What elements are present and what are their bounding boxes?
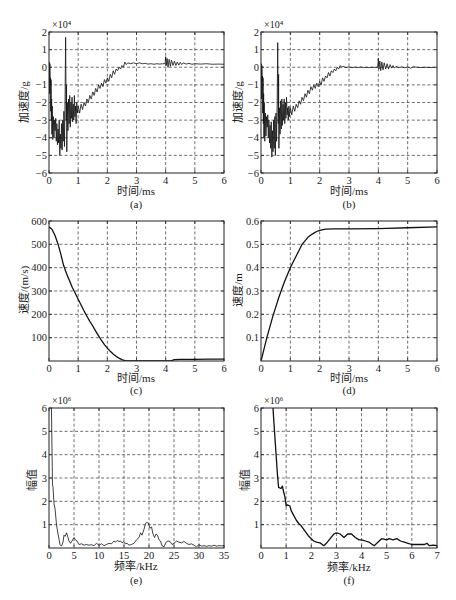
- x-tick-label: 0: [258, 363, 263, 374]
- y-tick-label: 0.3: [246, 286, 259, 297]
- x-tick-label: 5: [405, 175, 410, 186]
- x-tick-label: 5: [71, 550, 76, 561]
- x-tick-label: 6: [434, 363, 439, 374]
- x-tick-label: 15: [119, 550, 130, 561]
- x-tick-label: 2: [309, 550, 314, 561]
- x-tick-label: 4: [376, 175, 382, 186]
- y-tick-label: 4: [254, 449, 260, 460]
- y-tick-label: 5: [254, 426, 259, 437]
- y-tick-label: 200: [31, 309, 47, 320]
- x-tick-label: 5: [384, 550, 389, 561]
- panel-caption: (a): [130, 198, 143, 211]
- y-tick-label: −5: [248, 150, 259, 161]
- y-tick-label: 0: [42, 62, 47, 73]
- x-tick-label: 5: [192, 363, 197, 374]
- x-tick-label: 2: [317, 363, 322, 374]
- x-tick-label: 0: [258, 175, 263, 186]
- plot-area: [272, 396, 437, 545]
- panel-caption: (b): [343, 198, 356, 211]
- y-axis-label: 加速度/g: [231, 81, 244, 123]
- grid: [261, 221, 437, 361]
- y-tick-label: −6: [248, 168, 259, 179]
- subplot-f-spectrum: 01234567123456 ×10⁶ 频率/kHz 幅值 (f): [239, 395, 440, 587]
- y-tick-label: 0.4: [246, 262, 260, 273]
- x-axis-label: 时间/ms: [117, 372, 155, 384]
- x-tick-label: 1: [288, 363, 293, 374]
- x-tick-label: 3: [334, 550, 339, 561]
- subplot-c-velocity: 0123456100200300400500600 时间/ms 速度/(m/s)…: [17, 216, 227, 398]
- panel-caption: (d): [343, 384, 356, 397]
- figure: 0123456−6−5−4−3−2−1012 ×10⁴ 时间/ms 加速度/g …: [0, 0, 456, 600]
- y-axis-label: 加速度/g: [17, 81, 30, 123]
- y-tick-label: 3: [42, 473, 47, 484]
- y-tick-label: −1: [248, 79, 259, 90]
- grid: [49, 32, 224, 173]
- data-series-line: [272, 396, 437, 545]
- tick-labels: 05101520253035123456: [42, 403, 230, 561]
- x-tick-label: 7: [434, 550, 439, 561]
- y-exponent-label: ×10⁶: [264, 395, 284, 406]
- y-tick-label: 400: [31, 262, 47, 273]
- data-series-line: [51, 394, 224, 547]
- x-tick-label: 5: [405, 363, 410, 374]
- y-tick-label: 0.1: [246, 332, 259, 343]
- subplot-e-spectrum: 05101520253035123456 ×10⁶ 频率/kHz 幅值 (e): [26, 394, 229, 587]
- grid: [261, 408, 437, 548]
- grid: [261, 32, 437, 173]
- x-tick-label: 2: [105, 175, 110, 186]
- y-tick-label: 3: [254, 473, 259, 484]
- panel-caption: (f): [344, 574, 355, 587]
- y-tick-label: 0.6: [246, 216, 259, 227]
- tick-labels: 01234560.10.20.30.40.50.6: [246, 216, 440, 374]
- panel-caption: (c): [130, 384, 143, 397]
- y-tick-label: 4: [42, 449, 48, 460]
- tick-labels: 0123456−6−5−4−3−2−1012: [248, 27, 440, 186]
- subplot-a-acceleration: 0123456−6−5−4−3−2−1012 ×10⁴ 时间/ms 加速度/g …: [17, 19, 227, 211]
- y-tick-label: 1: [42, 44, 47, 55]
- y-tick-label: 2: [42, 496, 47, 507]
- panel-caption: (e): [130, 574, 143, 587]
- x-tick-label: 4: [359, 550, 365, 561]
- x-axis-label: 时间/ms: [330, 372, 368, 384]
- x-tick-label: 1: [76, 363, 81, 374]
- x-tick-label: 35: [219, 550, 230, 561]
- x-axis-label: 频率/kHz: [114, 559, 158, 572]
- x-tick-label: 6: [221, 363, 226, 374]
- plot-area: [261, 43, 434, 158]
- y-tick-label: −2: [248, 97, 259, 108]
- x-tick-label: 4: [376, 363, 382, 374]
- y-tick-label: −2: [36, 97, 47, 108]
- y-exponent-label: ×10⁴: [52, 19, 72, 30]
- y-tick-label: −4: [36, 132, 48, 143]
- data-series-line: [261, 43, 434, 158]
- y-axis-label: 幅值: [26, 469, 38, 491]
- x-tick-label: 6: [434, 175, 439, 186]
- x-tick-label: 6: [221, 175, 226, 186]
- subplot-d-displacement: 01234560.10.20.30.40.50.6 时间/ms 速度/m (d): [231, 216, 440, 398]
- y-exponent-label: ×10⁴: [264, 19, 284, 30]
- subplot-b-acceleration: 0123456−6−5−4−3−2−1012 ×10⁴ 时间/ms 加速度/g …: [231, 19, 440, 211]
- x-tick-label: 25: [169, 550, 180, 561]
- y-tick-label: 300: [31, 286, 47, 297]
- y-tick-label: 6: [42, 403, 47, 414]
- grid: [49, 221, 224, 361]
- x-axis-label: 时间/ms: [117, 185, 155, 197]
- y-tick-label: 5: [42, 426, 47, 437]
- x-tick-label: 0: [46, 175, 51, 186]
- y-tick-label: 6: [254, 403, 259, 414]
- y-tick-label: 500: [31, 239, 47, 250]
- y-tick-label: 2: [254, 27, 259, 38]
- y-axis-label: 速度/m: [231, 273, 244, 307]
- x-tick-label: 0: [46, 550, 51, 561]
- plot-area: [51, 394, 224, 547]
- y-tick-label: 100: [31, 332, 47, 343]
- y-tick-label: 0: [254, 62, 259, 73]
- y-tick-label: 1: [254, 519, 259, 530]
- y-tick-label: 2: [42, 27, 47, 38]
- x-axis-label: 时间/ms: [330, 185, 368, 197]
- y-axis-label: 速度/(m/s): [17, 266, 31, 315]
- x-tick-label: 4: [163, 175, 169, 186]
- x-tick-label: 1: [76, 175, 81, 186]
- y-tick-label: −3: [248, 115, 259, 126]
- x-tick-label: 1: [288, 175, 293, 186]
